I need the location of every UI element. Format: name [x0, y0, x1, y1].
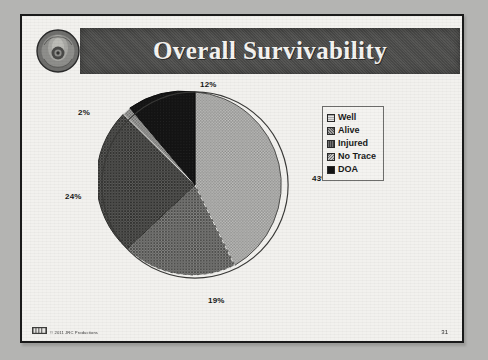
slide-page: Overall Survivability	[20, 14, 464, 343]
legend-label-alive: Alive	[338, 126, 360, 135]
legend-item-well[interactable]: Well	[327, 111, 376, 124]
page-number: 31	[441, 329, 448, 335]
slide-footer: © 2011 JRC Productions 31	[22, 315, 462, 341]
legend-label-no-trace: No Trace	[338, 152, 376, 161]
title-banner: Overall Survivability	[80, 28, 460, 74]
footer-copyright: © 2011 JRC Productions	[50, 330, 98, 335]
legend-swatch-injured-icon	[327, 140, 335, 148]
pie-chart-svg	[98, 88, 292, 282]
pie-chart	[98, 88, 292, 282]
legend-label-doa: DOA	[338, 165, 358, 174]
legend-swatch-doa-icon	[327, 166, 335, 174]
legend-item-doa[interactable]: DOA	[327, 163, 376, 176]
data-label-no-trace: 2%	[78, 108, 90, 117]
chart-legend: Well Alive Injured No Trace DOA	[322, 106, 384, 181]
pie-chart-area: 12% 2% 24% 19% 43% Well Alive Injured	[22, 74, 464, 319]
legend-label-well: Well	[338, 113, 356, 122]
page-title: Overall Survivability	[153, 37, 387, 65]
legend-item-no-trace[interactable]: No Trace	[327, 150, 376, 163]
legend-label-injured: Injured	[338, 139, 368, 148]
slide-header: Overall Survivability	[22, 16, 462, 78]
legend-swatch-alive-icon	[327, 127, 335, 135]
data-label-injured: 24%	[65, 192, 82, 201]
circular-seal-logo-icon	[36, 29, 80, 73]
legend-item-alive[interactable]: Alive	[327, 124, 376, 137]
scanned-slide-image: Overall Survivability	[0, 0, 488, 360]
data-label-alive: 19%	[208, 296, 225, 305]
legend-item-injured[interactable]: Injured	[327, 137, 376, 150]
publisher-mark-icon	[32, 326, 47, 335]
legend-swatch-no-trace-icon	[327, 153, 335, 161]
data-label-doa: 12%	[200, 80, 217, 89]
legend-swatch-well-icon	[327, 114, 335, 122]
